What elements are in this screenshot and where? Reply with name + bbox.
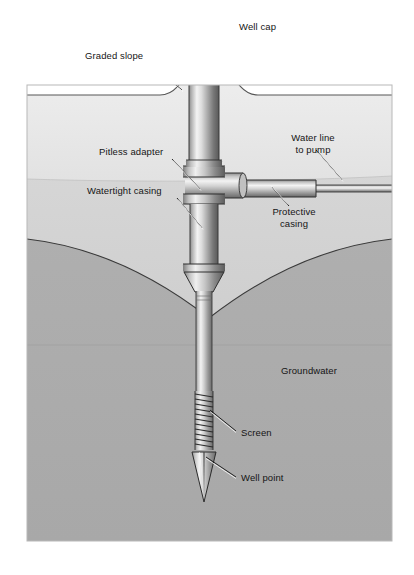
label-graded-slope: Graded slope (85, 50, 143, 62)
label-watertight-casing: Watertight casing (87, 185, 162, 197)
casing-upper-collar (183, 160, 225, 177)
label-groundwater: Groundwater (259, 365, 359, 377)
label-well-cap: Well cap (239, 21, 276, 33)
well-screen (195, 391, 213, 450)
well-diagram-canvas (0, 0, 414, 575)
drive-pipe (196, 291, 212, 391)
casing-lower-collar (183, 194, 225, 204)
leader-well-cap (214, 31, 236, 51)
watertight-casing-mid (190, 204, 218, 265)
water-line-to-pump (313, 185, 399, 192)
well-diagram-figure: Well cap Graded slope Water line to pump… (0, 0, 414, 575)
label-protective-casing: Protective casing (244, 206, 344, 229)
well-cap (182, 36, 226, 65)
label-pitless-adapter: Pitless adapter (99, 146, 163, 158)
watertight-casing-upper (189, 62, 219, 170)
protective-casing (240, 180, 316, 197)
label-water-line-to-pump: Water line to pump (263, 132, 363, 155)
soil-strata (27, 31, 399, 541)
label-well-point: Well point (241, 472, 284, 484)
label-screen: Screen (241, 427, 272, 439)
